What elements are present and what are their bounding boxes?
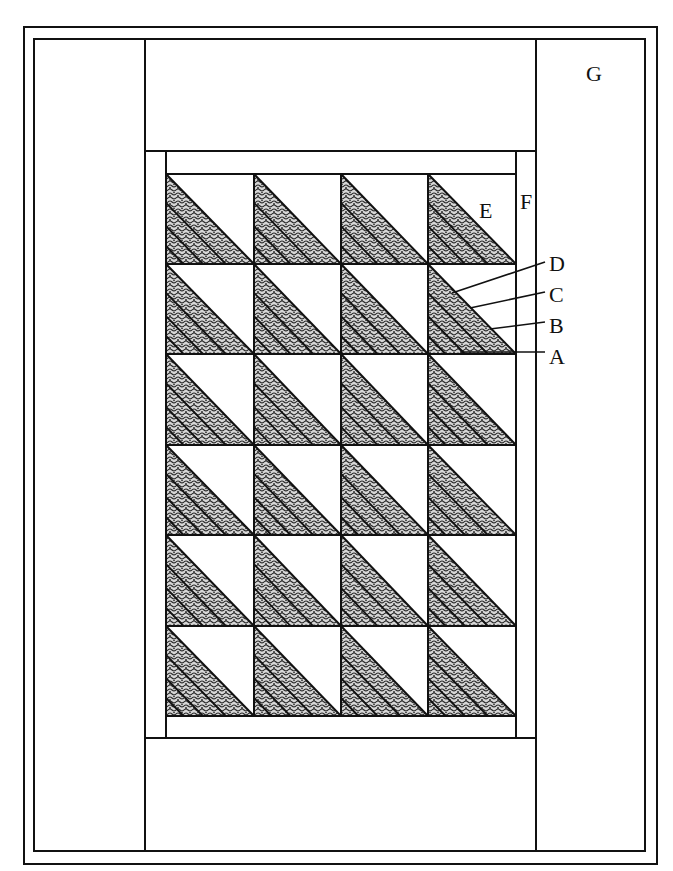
quilt-block (254, 174, 341, 264)
quilt-block (341, 174, 428, 264)
label-b: B (549, 313, 564, 338)
block-grid (166, 174, 516, 716)
quilt-block (166, 535, 254, 626)
label-a: A (549, 344, 565, 369)
label-e: E (479, 198, 492, 223)
label-f: F (520, 189, 532, 214)
quilt-block (341, 264, 428, 354)
quilt-diagram: G E F D C B A (0, 0, 673, 871)
label-c: C (549, 282, 564, 307)
quilt-block (254, 445, 341, 535)
quilt-block (341, 445, 428, 535)
quilt-block (166, 354, 254, 445)
quilt-block (428, 626, 516, 716)
quilt-block (428, 354, 516, 445)
quilt-block (254, 354, 341, 445)
label-g: G (586, 61, 602, 86)
quilt-block (166, 264, 254, 354)
quilt-block (341, 535, 428, 626)
label-d: D (549, 251, 565, 276)
quilt-block (166, 626, 254, 716)
quilt-block (341, 626, 428, 716)
quilt-block (428, 445, 516, 535)
quilt-block (428, 174, 516, 264)
quilt-block (254, 535, 341, 626)
quilt-block (254, 626, 341, 716)
quilt-block (428, 264, 516, 354)
quilt-block (254, 264, 341, 354)
quilt-block (166, 445, 254, 535)
quilt-block (428, 535, 516, 626)
quilt-block (166, 174, 254, 264)
quilt-block (341, 354, 428, 445)
